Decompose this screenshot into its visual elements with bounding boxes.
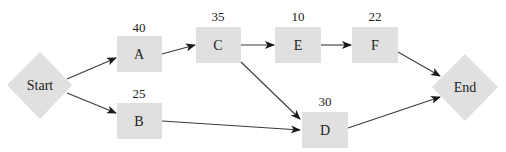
node-b: 25 B bbox=[117, 86, 162, 140]
edge-a-to-c bbox=[162, 45, 195, 54]
edge-b-to-d bbox=[162, 121, 300, 130]
node-start: Start bbox=[7, 52, 72, 119]
end-label: End bbox=[454, 80, 477, 95]
activity-network-diagram: Start 40 A 25 B 35 C 10 E 22 F 30 D End bbox=[0, 0, 506, 152]
node-a: 40 A bbox=[117, 20, 162, 73]
edge-f-to-end bbox=[398, 52, 440, 76]
node-d: 30 D bbox=[302, 94, 348, 149]
node-c-duration: 35 bbox=[212, 9, 225, 24]
node-end: End bbox=[432, 54, 498, 121]
node-d-duration: 30 bbox=[319, 94, 332, 109]
node-b-label: B bbox=[134, 114, 143, 129]
edge-c-to-d bbox=[241, 62, 300, 119]
node-e: 10 E bbox=[275, 9, 321, 64]
edge-d-to-end bbox=[348, 97, 440, 128]
node-b-duration: 25 bbox=[133, 86, 146, 101]
edge-start-to-b bbox=[67, 93, 116, 113]
node-c-label: C bbox=[213, 38, 222, 53]
node-f-duration: 22 bbox=[369, 9, 382, 24]
start-label: Start bbox=[27, 78, 54, 93]
node-e-label: E bbox=[294, 38, 303, 53]
node-c: 35 C bbox=[196, 9, 241, 64]
node-a-label: A bbox=[134, 47, 145, 62]
node-a-duration: 40 bbox=[133, 20, 146, 35]
node-d-label: D bbox=[320, 123, 330, 138]
node-f: 22 F bbox=[352, 9, 398, 64]
node-e-duration: 10 bbox=[292, 9, 305, 24]
edge-start-to-a bbox=[67, 58, 116, 79]
node-f-label: F bbox=[371, 38, 379, 53]
